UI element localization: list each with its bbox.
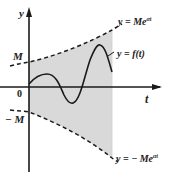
upper-bound-label: y = Meαt xyxy=(117,16,152,27)
exponential-order-diagram: y t 0 M − M y = Meαt y = f(t) y = − Meαt xyxy=(0,0,173,177)
t-axis-arrow-icon xyxy=(152,84,162,90)
y-axis-label: y xyxy=(17,7,24,19)
function-label: y = f(t) xyxy=(116,48,145,60)
y-axis-arrow-icon xyxy=(26,7,32,17)
origin-label: 0 xyxy=(17,88,22,99)
tick-label-minus-M: − M xyxy=(5,113,25,125)
lower-bound-label: y = − Meαt xyxy=(115,153,158,164)
t-axis-label: t xyxy=(145,92,149,106)
shaded-region xyxy=(29,30,112,158)
tick-label-M: M xyxy=(12,50,24,62)
